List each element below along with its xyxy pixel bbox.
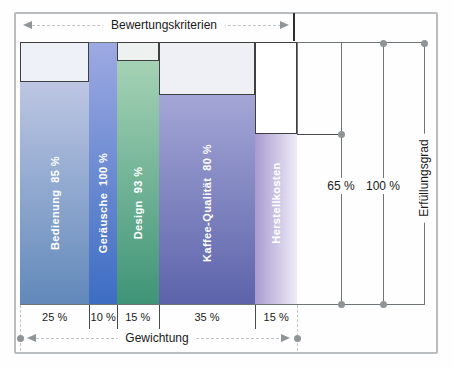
bar-label-text: Geräusche 100 % [97,153,109,254]
junction-dot [380,301,387,308]
arrow-left-icon [27,334,36,342]
bar-label-text: Kaffee-Qualität 80 % [201,144,213,262]
bar-empty-bedienung [20,42,89,82]
chart-canvas: Bewertungskriterien Bedienung 85 %25 %Ge… [0,0,454,369]
criteria-axis-label: Bewertungskriterien [103,18,225,33]
weight-extension-right [297,305,298,351]
weight-axis-label: Gewichtung [117,331,196,346]
bar-empty-design [117,42,159,61]
junction-dot [17,335,24,342]
weight-label-bedienung: 25 % [20,311,89,323]
scale-65-label: 65 % [323,178,358,194]
scale-line-100 [383,43,384,304]
junction-dot [421,40,428,47]
arrow-left-icon [23,21,32,29]
junction-dot [294,335,301,342]
arrow-right-icon [280,21,289,29]
baseline [20,304,425,305]
arrow-right-icon [281,334,290,342]
weight-label-kaffee-qualitaet: 35 % [159,311,256,323]
scale-line-65 [341,43,342,304]
weight-label-design: 15 % [117,311,159,323]
junction-dot [380,40,387,47]
weight-label-herstellkosten: 15 % [255,311,297,323]
bar-label-text: Herstellkosten [270,162,282,243]
junction-dot [338,301,345,308]
bar-empty-herstellkosten [255,42,297,134]
bar-empty-kaffee-qualitaet [159,42,256,95]
bar-label-text: Bedienung 85 % [49,156,61,250]
scale-100-label: 100 % [362,178,404,194]
weight-label-geraeusche: 10 % [89,311,117,323]
criteria-region-divider [293,13,295,41]
bar-area-right-edge [297,43,298,134]
junction-dot [338,131,345,138]
bar-label-text: Design 93 % [132,167,144,240]
